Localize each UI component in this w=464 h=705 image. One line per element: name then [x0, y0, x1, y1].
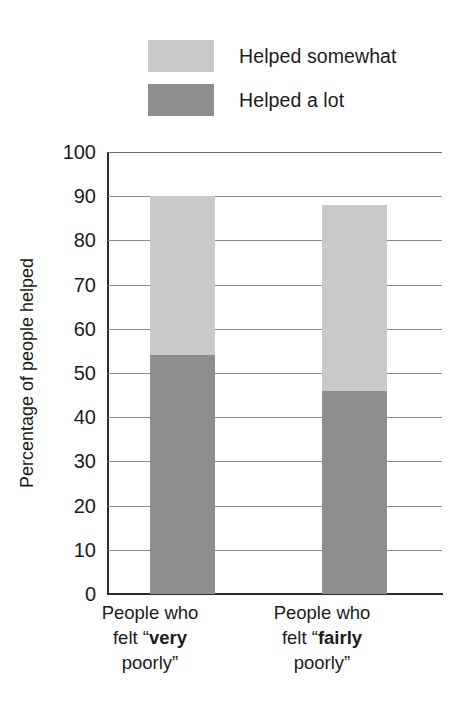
y-tick-label-100: 100 [0, 142, 96, 162]
stacked-bar-chart: Percentage of people helped 100908070605… [0, 0, 464, 705]
y-tick-label-10: 10 [0, 540, 96, 560]
x-label-line-3: poorly” [60, 650, 240, 675]
x-axis-label-fairly-poorly: People who felt “fairly poorly” [232, 600, 412, 675]
y-tick-label-90: 90 [0, 186, 96, 206]
y-tick-label-70: 70 [0, 275, 96, 295]
plot-area [108, 152, 442, 594]
y-tick-label-50: 50 [0, 363, 96, 383]
bar-segment-helped-somewhat[interactable] [322, 205, 387, 391]
bar-segment-helped-somewhat[interactable] [150, 196, 215, 355]
x-label-line-1: People who [232, 600, 412, 625]
bar-segment-helped-a-lot[interactable] [322, 391, 387, 594]
x-label-prefix: felt “ [113, 627, 149, 648]
y-axis-tick-labels: 1009080706050403020100 [0, 152, 96, 594]
x-label-line-1: People who [60, 600, 240, 625]
x-label-emphasis: fairly [318, 627, 362, 648]
x-label-line-2: felt “fairly [232, 625, 412, 650]
gridline-100 [108, 152, 442, 153]
x-label-prefix: felt “ [282, 627, 318, 648]
bar-column-0[interactable] [150, 196, 215, 594]
y-tick-label-40: 40 [0, 407, 96, 427]
x-label-line-2: felt “very [60, 625, 240, 650]
x-label-line-3: poorly” [232, 650, 412, 675]
y-tick-label-60: 60 [0, 319, 96, 339]
y-tick-label-30: 30 [0, 451, 96, 471]
y-tick-label-20: 20 [0, 496, 96, 516]
x-axis-label-very-poorly: People who felt “very poorly” [60, 600, 240, 675]
y-tick-label-80: 80 [0, 230, 96, 250]
x-label-emphasis: very [149, 627, 187, 648]
bar-column-1[interactable] [322, 205, 387, 594]
bar-segment-helped-a-lot[interactable] [150, 355, 215, 594]
